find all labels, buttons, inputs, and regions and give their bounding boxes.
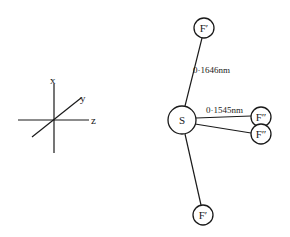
atom-s-label: S: [179, 114, 185, 126]
atom-f-axial-bottom: F′: [193, 205, 213, 225]
y-axis-label: y: [80, 92, 86, 104]
bond-axial-bottom: [185, 134, 201, 205]
atom-f-equatorial-1-label: F″: [256, 111, 267, 123]
x-axis-label: x: [50, 74, 56, 86]
bond-equatorial-2: [195, 124, 251, 133]
z-axis-label: z: [91, 114, 96, 126]
equatorial-bond-length-label: 0·1545nm: [206, 105, 243, 115]
axial-bond-length-label: 0·1646nm: [193, 65, 230, 75]
sf4-structure-diagram: x y z 0·1646nm 0·1545nm S F′ F″ F″ F′: [0, 0, 290, 237]
y-axis-line: [32, 98, 81, 137]
atom-f-axial-top: F′: [194, 18, 214, 38]
atom-f-equatorial-2: F″: [251, 124, 271, 144]
bond-equatorial-1: [196, 116, 251, 118]
atom-f-equatorial-2-label: F″: [256, 128, 267, 140]
atom-f-axial-bottom-label: F′: [199, 209, 208, 221]
atom-s: S: [168, 106, 196, 134]
coordinate-axes: [18, 84, 89, 153]
atom-f-axial-top-label: F′: [200, 22, 209, 34]
